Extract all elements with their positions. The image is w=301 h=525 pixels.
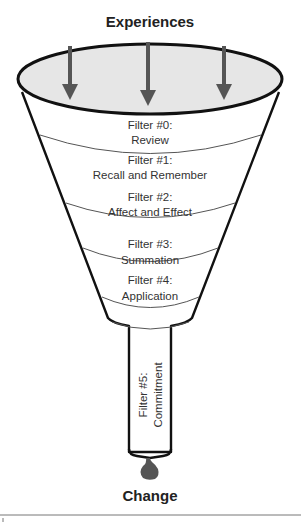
filter-4-name: Application [122, 290, 178, 302]
experiences-label: Experiences [106, 13, 194, 30]
filter-2-name: Affect and Effect [108, 206, 193, 218]
drop-icon [141, 458, 159, 480]
filter-1-title: Filter #1: [128, 154, 173, 166]
filter-3-name: Summation [121, 254, 179, 266]
filter-4-title: Filter #4: [128, 274, 173, 286]
filter-0-name: Review [131, 134, 169, 146]
filter-0-title: Filter #0: [128, 119, 173, 131]
filter-2-title: Filter #2: [128, 191, 173, 203]
filter-1-name: Recall and Remember [93, 169, 208, 181]
change-label: Change [122, 487, 177, 504]
filter-5-name: Commitment [152, 362, 164, 428]
filter-5-title: Filter #5: [137, 373, 149, 418]
funnel-diagram: Experiences Filter #0: Review Filter #1:… [0, 0, 301, 525]
filter-3-title: Filter #3: [128, 238, 173, 250]
funnel-body [22, 92, 279, 452]
